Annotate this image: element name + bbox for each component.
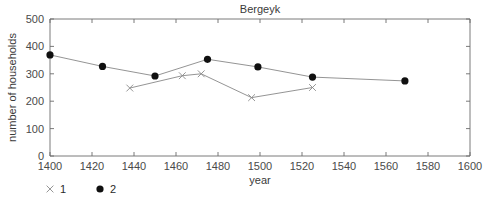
data-point-series-2 xyxy=(401,77,408,84)
legend-marker-1 xyxy=(47,186,54,193)
x-tick-label: 1500 xyxy=(248,160,272,172)
household-line-chart: 0100200300400500140014201440146014801500… xyxy=(0,0,496,210)
y-axis-title: number of households xyxy=(6,33,18,142)
data-point-series-1 xyxy=(126,85,133,92)
legend-label-2: 2 xyxy=(110,183,116,195)
chart-container: 0100200300400500140014201440146014801500… xyxy=(0,0,496,210)
x-tick-label: 1440 xyxy=(122,160,146,172)
data-point-series-2 xyxy=(46,51,53,58)
data-point-series-2 xyxy=(99,63,106,70)
x-axis-title: year xyxy=(249,174,271,186)
y-tick-label: 100 xyxy=(26,123,44,135)
data-point-series-2 xyxy=(204,56,211,63)
data-point-series-2 xyxy=(254,63,261,70)
x-tick-label: 1420 xyxy=(80,160,104,172)
plot-axes-frame xyxy=(50,19,470,156)
x-tick-label: 1460 xyxy=(164,160,188,172)
x-tick-label: 1400 xyxy=(38,160,62,172)
y-tick-label: 300 xyxy=(26,68,44,80)
x-tick-label: 1600 xyxy=(458,160,482,172)
legend-label-1: 1 xyxy=(60,183,66,195)
data-point-series-2 xyxy=(151,72,158,79)
y-tick-label: 200 xyxy=(26,95,44,107)
y-tick-label: 500 xyxy=(26,13,44,25)
chart-title: Bergeyk xyxy=(240,3,281,15)
x-tick-label: 1540 xyxy=(332,160,356,172)
x-tick-label: 1580 xyxy=(416,160,440,172)
data-point-series-2 xyxy=(309,73,316,80)
legend-marker-2 xyxy=(96,185,103,192)
y-tick-label: 400 xyxy=(26,40,44,52)
x-tick-label: 1560 xyxy=(374,160,398,172)
x-tick-label: 1520 xyxy=(290,160,314,172)
x-tick-label: 1480 xyxy=(206,160,230,172)
